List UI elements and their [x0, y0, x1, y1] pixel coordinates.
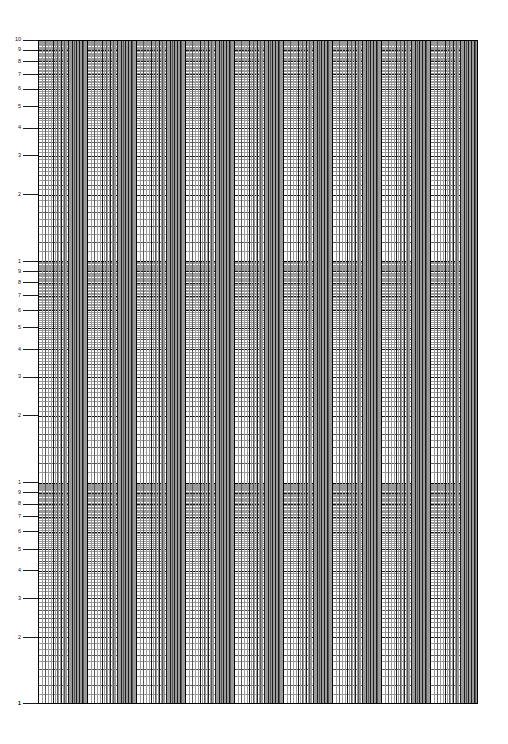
v-gridline-minor [45, 40, 46, 704]
y-axis-tick: 6 [8, 306, 38, 315]
v-gridline-minor [342, 40, 343, 704]
v-gridline [102, 40, 103, 704]
v-gridline-minor [189, 40, 190, 704]
y-axis-tick-rule [23, 50, 38, 51]
v-gridline [298, 40, 299, 704]
y-axis-tick: 1 [8, 699, 38, 708]
v-gridline-minor [251, 40, 252, 704]
y-axis-tick: 8 [8, 500, 38, 509]
y-axis-tick-label: 9 [8, 269, 23, 274]
graph-paper-sheet: 109876543219876543219876543211 [0, 0, 508, 744]
y-axis-tick-label: 4 [8, 125, 23, 130]
y-axis-tick: 3 [8, 594, 38, 603]
v-gridline-minor [447, 40, 448, 704]
y-axis-tick: 4 [8, 566, 38, 575]
y-axis-tick: 2 [8, 411, 38, 420]
y-axis-tick-rule [23, 282, 38, 283]
v-gridline-minor [42, 40, 43, 704]
y-axis-tick-label: 5 [8, 325, 23, 330]
y-axis-tick-label: 6 [8, 529, 23, 534]
v-gridline-minor [202, 40, 203, 704]
y-axis-tick-rule [23, 327, 38, 328]
y-axis-tick: 9 [8, 46, 38, 55]
v-decade-line [332, 40, 333, 704]
v-gridline-minor [345, 40, 346, 704]
y-axis-tick: 8 [8, 57, 38, 66]
y-axis-tick-rule [23, 295, 38, 296]
y-axis-tick: 8 [8, 278, 38, 287]
y-axis-tick-rule [23, 482, 38, 483]
v-decade-line [87, 40, 88, 704]
y-axis-tick: 9 [8, 267, 38, 276]
v-gridline-minor [440, 40, 441, 704]
v-gridline-minor [300, 40, 301, 704]
y-axis-tick-label: 4 [8, 347, 23, 352]
y-axis-tick-label: 5 [8, 104, 23, 109]
v-gridline-minor [143, 40, 144, 704]
v-decade-line [381, 40, 382, 704]
y-axis-tick: 1 [8, 257, 38, 266]
y-axis-tick-label: 1 [8, 259, 23, 264]
v-gridline-minor [349, 40, 350, 704]
y-axis-tick: 3 [8, 151, 38, 160]
v-decade-line [136, 40, 137, 704]
v-gridline [200, 40, 201, 704]
v-decade-line [477, 40, 478, 704]
v-gridline-minor [296, 40, 297, 704]
v-gridline [53, 40, 54, 704]
y-axis-tick-rule [23, 570, 38, 571]
y-axis-tick-label: 1 [8, 480, 23, 485]
y-axis-tick: 1 [8, 478, 38, 487]
v-decade-line [38, 40, 39, 704]
y-axis-tick-label: 2 [8, 635, 23, 640]
v-gridline-minor [241, 40, 242, 704]
log-log-grid[interactable] [38, 40, 478, 704]
y-axis-tick-label: 6 [8, 86, 23, 91]
y-axis-tick-rule [23, 492, 38, 493]
y-axis-tick-rule [23, 61, 38, 62]
v-gridline-minor [195, 40, 196, 704]
y-axis-tick-label: 3 [8, 596, 23, 601]
y-axis-tick-rule [23, 310, 38, 311]
y-axis-tick-label: 4 [8, 568, 23, 573]
y-axis-tick: 7 [8, 291, 38, 300]
v-gridline-minor [91, 40, 92, 704]
v-gridline [249, 40, 250, 704]
y-axis-tick-label: 1 [8, 701, 23, 706]
v-gridline-minor [100, 40, 101, 704]
y-axis-tick-label: 1 [8, 701, 23, 706]
v-gridline-minor [104, 40, 105, 704]
v-gridline-minor [244, 40, 245, 704]
y-axis-tick-rule [23, 598, 38, 599]
y-axis-tick-label: 2 [8, 192, 23, 197]
v-gridline-minor [434, 40, 435, 704]
y-axis-tick-label: 8 [8, 501, 23, 506]
v-gridline-minor [153, 40, 154, 704]
y-axis-tick-rule [23, 349, 38, 350]
y-axis-tick-rule [23, 516, 38, 517]
v-gridline-minor [97, 40, 98, 704]
y-axis-tick-label: 6 [8, 308, 23, 313]
v-gridline-minor [238, 40, 239, 704]
y-axis-tick-label: 3 [8, 153, 23, 158]
v-gridline-minor [293, 40, 294, 704]
y-axis-tick-rule [23, 155, 38, 156]
y-axis-tick-rule [23, 504, 38, 505]
v-gridline [445, 40, 446, 704]
y-axis-tick-rule [23, 703, 38, 704]
y-axis-tick-rule [23, 637, 38, 638]
y-axis-tick-rule [23, 415, 38, 416]
v-gridline-minor [51, 40, 52, 704]
y-axis-tick-rule [23, 40, 38, 41]
v-gridline-minor [198, 40, 199, 704]
y-axis-tick-label: 9 [8, 490, 23, 495]
v-gridline [151, 40, 152, 704]
y-axis-tick-rule [23, 703, 38, 704]
y-axis-tick: 10 [8, 36, 38, 45]
v-gridline-minor [94, 40, 95, 704]
y-axis-tick-label: 3 [8, 374, 23, 379]
v-gridline-minor [336, 40, 337, 704]
y-axis-tick: 5 [8, 323, 38, 332]
v-gridline-minor [394, 40, 395, 704]
v-gridline-minor [55, 40, 56, 704]
